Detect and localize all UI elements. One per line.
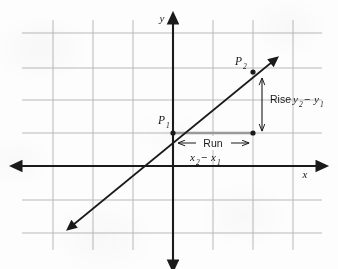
rise-minus: − (304, 93, 310, 105)
run-minus: − (201, 151, 207, 163)
rise-y2-main: y (292, 93, 298, 105)
point-corner-marker (250, 130, 255, 135)
run-x1-main: x (210, 151, 216, 163)
run-x2-main: x (189, 151, 195, 163)
rise-text: Rise (270, 93, 291, 105)
point-p1-label-main: P (157, 114, 165, 126)
x-axis-label: x (302, 168, 308, 180)
rise-y1-sub: 1 (320, 100, 324, 109)
run-x2-sub: 2 (196, 158, 200, 167)
run-x1-sub: 1 (217, 158, 221, 167)
diagram-canvas: y x P 1 P 2 Rise y 2 − y 1 Run x 2 − x 1 (0, 0, 338, 269)
point-p2-marker (250, 69, 255, 74)
slope-diagram-figure: y x P 1 P 2 Rise y 2 − y 1 Run x 2 − x 1 (0, 0, 338, 269)
point-p1-label-sub: 1 (166, 121, 170, 130)
rise-y2-sub: 2 (299, 100, 303, 109)
figure-background (0, 0, 338, 269)
y-axis-label: y (159, 12, 165, 24)
point-p2-label-main: P (234, 55, 242, 67)
point-p2-label-sub: 2 (243, 62, 247, 71)
run-text: Run (203, 137, 222, 149)
point-p1-marker (170, 130, 175, 135)
rise-y1-main: y (313, 93, 319, 105)
